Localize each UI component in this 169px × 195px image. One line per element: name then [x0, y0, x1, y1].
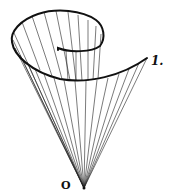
generator-lines	[13, 11, 147, 188]
spiral-curve	[12, 11, 147, 81]
spiral-end-label: 1.	[151, 54, 164, 68]
apex-label: O	[61, 179, 71, 192]
apex-point	[83, 187, 86, 190]
spiral-cone-diagram: 1. O	[0, 0, 169, 195]
